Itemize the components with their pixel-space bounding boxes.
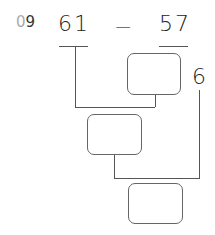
- right-operand: 57: [159, 13, 191, 35]
- left-operand-underline: [59, 46, 88, 47]
- left-operand: 61: [58, 13, 90, 35]
- problem-number-prefix: 0: [16, 13, 26, 31]
- connector-line: [114, 178, 200, 179]
- answer-box-3[interactable]: [128, 183, 183, 224]
- connector-line: [75, 46, 76, 107]
- operator-minus: −: [114, 16, 134, 38]
- given-part: 6: [192, 66, 208, 88]
- answer-box-2[interactable]: [87, 114, 142, 155]
- connector-line: [155, 95, 156, 107]
- problem-number-suffix: 9: [26, 13, 36, 31]
- right-operand-underline: [159, 46, 188, 47]
- connector-line: [75, 107, 155, 108]
- answer-box-1[interactable]: [127, 53, 181, 95]
- connector-line: [114, 155, 115, 178]
- connector-line: [199, 90, 200, 178]
- problem-number: 09: [16, 15, 35, 30]
